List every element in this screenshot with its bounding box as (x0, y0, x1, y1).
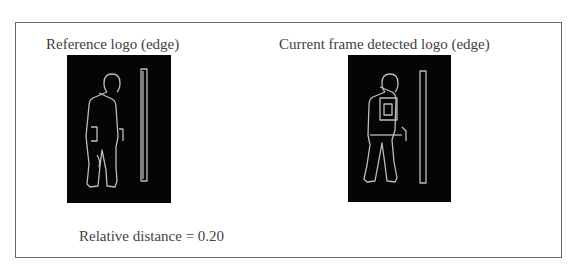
detected-logo-edge-image (348, 55, 451, 202)
relative-distance-label: Relative distance = 0.20 (79, 228, 224, 245)
reference-logo-edge-image (67, 55, 171, 203)
reference-logo-title: Reference logo (edge) (46, 36, 179, 53)
detected-logo-title: Current frame detected logo (edge) (279, 36, 490, 53)
person-silhouette-icon (348, 55, 451, 202)
person-silhouette-icon (67, 55, 171, 203)
